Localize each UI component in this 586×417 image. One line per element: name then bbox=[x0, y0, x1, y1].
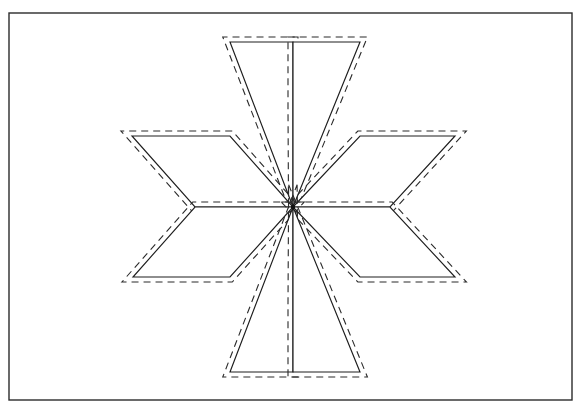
drawing-canvas bbox=[0, 0, 586, 417]
star-center-dot bbox=[291, 205, 295, 209]
star-pattern-figure bbox=[0, 0, 586, 417]
diamond-w-s-outline bbox=[133, 207, 293, 277]
